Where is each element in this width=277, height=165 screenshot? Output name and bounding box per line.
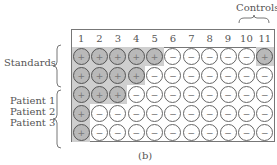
negative-well-icon: − [183,86,200,103]
standards-label: Standards [4,57,56,68]
well: − [164,85,182,104]
well: − [182,47,200,66]
negative-well-icon: − [128,86,145,103]
well: + [256,47,274,66]
well: + [90,66,108,85]
well: + [109,66,127,85]
positive-well-icon: + [109,48,126,65]
negative-well-icon: − [128,124,145,141]
microplate: 1234567891011 +++++−−−−−+++++−−−−−−−+++−… [71,29,275,142]
well: − [201,123,219,142]
well: + [72,104,90,123]
patient-labels: Patient 1 Patient 2 Patient 3 [10,95,55,128]
positive-well-icon: + [256,48,273,65]
column-header-row: 1234567891011 [72,30,274,48]
well-grid: +++++−−−−−+++++−−−−−−−+++−−−−−−−−+−−−−−−… [72,47,274,142]
positive-well-icon: + [109,86,126,103]
negative-well-icon: − [183,48,200,65]
positive-well-icon: + [73,105,90,122]
well: − [145,123,163,142]
well: − [201,47,219,66]
column-number: 10 [237,30,255,47]
well: − [219,66,237,85]
well: − [256,66,274,85]
negative-well-icon: − [238,86,255,103]
negative-well-icon: − [238,124,255,141]
column-number: 2 [90,30,108,47]
positive-well-icon: + [73,67,90,84]
patient-3-label: Patient 3 [10,117,55,128]
positive-well-icon: + [73,86,90,103]
well: − [237,66,255,85]
negative-well-icon: − [183,105,200,122]
negative-well-icon: − [146,124,163,141]
negative-well-icon: − [109,124,126,141]
well: − [164,66,182,85]
positive-well-icon: + [73,124,90,141]
well: − [237,123,255,142]
negative-well-icon: − [201,124,218,141]
well: − [256,104,274,123]
negative-well-icon: − [146,67,163,84]
negative-well-icon: − [164,124,181,141]
negative-well-icon: − [164,48,181,65]
well: − [201,66,219,85]
column-number: 8 [201,30,219,47]
column-number: 5 [145,30,163,47]
negative-well-icon: − [220,86,237,103]
negative-well-icon: − [256,105,273,122]
negative-well-icon: − [238,67,255,84]
controls-brace-icon [238,14,270,24]
negative-well-icon: − [146,86,163,103]
well: − [256,85,274,104]
negative-well-icon: − [220,124,237,141]
column-number: 7 [182,30,200,47]
column-number: 4 [127,30,145,47]
negative-well-icon: − [220,48,237,65]
negative-well-icon: − [201,105,218,122]
well: − [219,104,237,123]
well: − [182,123,200,142]
well: + [145,47,163,66]
well: − [109,104,127,123]
positive-well-icon: + [73,48,90,65]
negative-well-icon: − [256,124,273,141]
negative-well-icon: − [201,67,218,84]
negative-well-icon: − [238,105,255,122]
controls-label: Controls [236,2,277,13]
well: − [127,123,145,142]
column-number: 6 [164,30,182,47]
patient-1-label: Patient 1 [10,95,55,106]
well: − [182,66,200,85]
well: − [145,104,163,123]
column-number: 3 [109,30,127,47]
negative-well-icon: − [146,105,163,122]
column-number: 1 [72,30,90,47]
well: − [182,104,200,123]
well: − [90,104,108,123]
well: − [219,123,237,142]
negative-well-icon: − [164,105,181,122]
negative-well-icon: − [256,86,273,103]
well: − [237,85,255,104]
negative-well-icon: − [256,67,273,84]
well: − [164,104,182,123]
well: − [256,123,274,142]
well: − [237,104,255,123]
well: − [164,123,182,142]
negative-well-icon: − [128,105,145,122]
well: + [72,66,90,85]
well: + [127,66,145,85]
well: − [90,123,108,142]
positive-well-icon: + [146,48,163,65]
negative-well-icon: − [220,67,237,84]
well: − [219,47,237,66]
positive-well-icon: + [128,67,145,84]
negative-well-icon: − [238,48,255,65]
well: − [145,85,163,104]
well: − [127,104,145,123]
well: − [237,47,255,66]
well: − [109,123,127,142]
well: − [145,66,163,85]
figure-caption: (b) [138,150,152,161]
